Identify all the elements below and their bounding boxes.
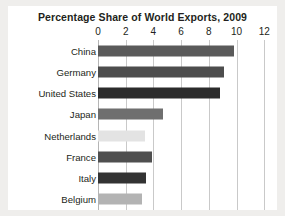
x-tick-label: 6: [178, 26, 184, 37]
bar-row: Italy: [8, 168, 277, 189]
plot-area: 024681012 ChinaGermanyUnited StatesJapan…: [8, 26, 277, 210]
bar: [98, 45, 234, 56]
bar-row: Netherlands: [8, 125, 277, 146]
bar-row: Belgium: [8, 189, 277, 210]
bar: [98, 130, 145, 141]
bar-row: China: [8, 40, 277, 61]
x-tick-label: 4: [151, 26, 157, 37]
bar: [98, 151, 152, 162]
bar: [98, 66, 224, 77]
x-tick-label: 8: [206, 26, 212, 37]
bar: [98, 88, 220, 99]
bar-category-label: Italy: [78, 173, 96, 184]
x-tick-label: 0: [95, 26, 101, 37]
bar-row: United States: [8, 83, 277, 104]
chart-title: Percentage Share of World Exports, 2009: [8, 11, 277, 23]
bar-category-label: Germany: [57, 66, 96, 77]
bar-category-label: Belgium: [61, 194, 96, 205]
bar-category-label: China: [71, 45, 96, 56]
bar-row: France: [8, 146, 277, 167]
x-axis-tick-labels: 024681012: [8, 26, 277, 40]
chart-card: Percentage Share of World Exports, 2009 …: [8, 6, 277, 210]
x-tick-label: 10: [231, 26, 242, 37]
bar-series: ChinaGermanyUnited StatesJapanNetherland…: [8, 40, 277, 210]
bar: [98, 173, 146, 184]
bar: [98, 109, 163, 120]
bar-category-label: France: [66, 151, 96, 162]
bar-category-label: United States: [38, 88, 96, 99]
bar-row: Germany: [8, 61, 277, 82]
x-tick-label: 2: [123, 26, 129, 37]
bar-category-label: Netherlands: [44, 130, 96, 141]
bar: [98, 194, 142, 205]
x-tick-label: 12: [259, 26, 270, 37]
bar-row: Japan: [8, 104, 277, 125]
bar-category-label: Japan: [70, 109, 96, 120]
